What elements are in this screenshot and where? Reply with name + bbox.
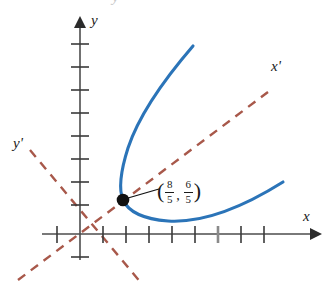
rotated-axes-group [18,92,268,284]
label-open-paren: ( [157,180,164,202]
x-axis-label: x [303,209,310,224]
x-coordinate-denominator: 5 [166,194,174,206]
x-prime-axis-label: x' [271,59,281,74]
x-coordinate-fraction: 8 5 [165,179,174,205]
label-close-paren: ) [194,180,201,202]
label-comma: , [176,189,180,203]
parabola-curve [121,46,283,221]
vertex-point-marker [117,194,130,207]
y-coordinate-numerator: 6 [185,179,193,191]
x-axis-arrowhead [310,228,322,240]
y-prime-axis-line [30,150,142,284]
graph-canvas [0,0,325,285]
point-leader-line [128,189,159,198]
y-prime-axis-label: y' [13,136,23,151]
x-coordinate-numerator: 8 [166,179,174,191]
primary-axes-group [42,16,322,260]
y-coordinate-denominator: 5 [185,194,193,206]
y-coordinate-fraction: 6 5 [184,179,193,205]
x-prime-axis-line [18,92,268,280]
y-axis-label: y [91,13,98,28]
y-axis-arrowhead [74,16,86,28]
rotated-conic-figure: y [0,0,325,285]
point-coordinate-label: ( 8 5 , 6 5 ) [157,179,201,205]
